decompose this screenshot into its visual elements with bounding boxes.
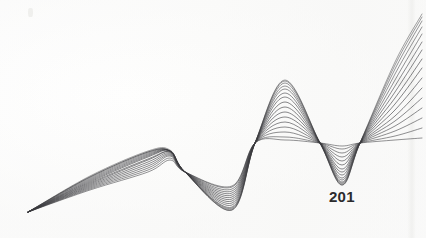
page-number: 201 <box>322 188 362 205</box>
wave-strand <box>28 98 422 212</box>
scanned-page: 201 <box>0 0 426 238</box>
wave-line-art-figure <box>0 0 426 238</box>
wave-strand <box>28 118 422 212</box>
wave-strand-group <box>28 14 422 212</box>
wave-strand <box>28 108 422 212</box>
wave-strand <box>28 68 422 212</box>
